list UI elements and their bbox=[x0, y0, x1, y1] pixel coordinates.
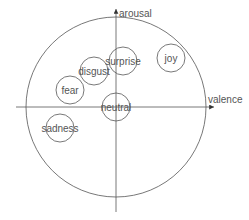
svg-text:neutral: neutral bbox=[101, 102, 132, 113]
svg-text:fear: fear bbox=[61, 85, 79, 96]
emotion-neutral: neutral bbox=[101, 93, 132, 121]
circumplex-diagram: arousal valence joy surprise disgust fea… bbox=[0, 0, 249, 220]
emotion-fear: fear bbox=[56, 76, 84, 104]
emotion-sadness: sadness bbox=[41, 114, 78, 142]
svg-text:joy: joy bbox=[164, 53, 178, 64]
emotion-joy: joy bbox=[157, 44, 185, 72]
svg-text:sadness: sadness bbox=[41, 123, 78, 134]
valence-label: valence bbox=[208, 94, 243, 105]
arousal-label: arousal bbox=[119, 8, 152, 19]
svg-text:surprise: surprise bbox=[105, 56, 141, 67]
emotion-surprise: surprise bbox=[105, 47, 141, 75]
svg-text:disgust: disgust bbox=[78, 66, 110, 77]
